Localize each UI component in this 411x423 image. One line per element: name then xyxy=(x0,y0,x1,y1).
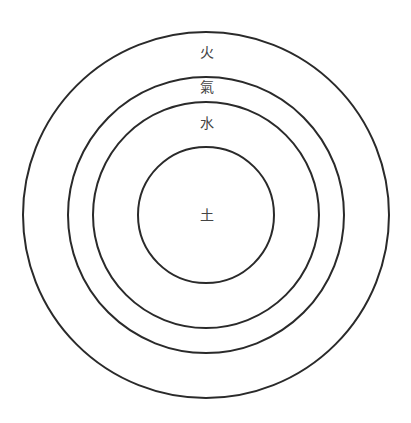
water-label: 水 xyxy=(200,115,214,131)
earth-label: 土 xyxy=(200,207,214,223)
fire-label: 火 xyxy=(200,44,214,60)
concentric-elements-diagram: 火 氣 水 土 xyxy=(0,0,411,423)
air-label: 氣 xyxy=(200,79,214,95)
